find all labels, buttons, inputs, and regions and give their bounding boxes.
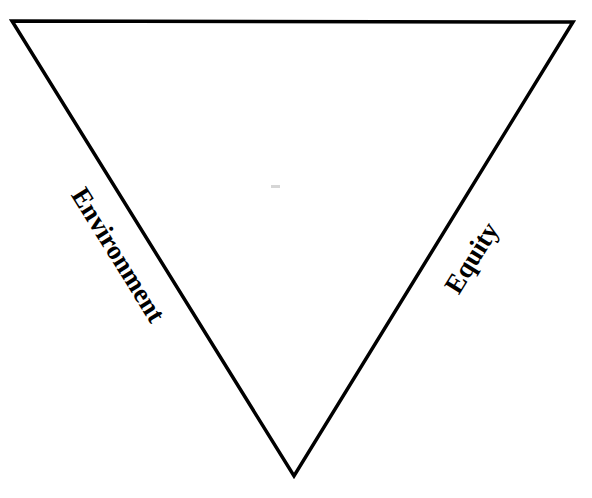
center-mark <box>271 185 280 188</box>
triangle-diagram <box>0 0 592 498</box>
